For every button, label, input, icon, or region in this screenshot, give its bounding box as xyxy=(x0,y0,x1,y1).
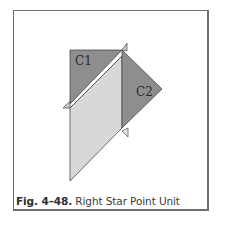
caption-label: Fig. 4–48. xyxy=(16,195,72,207)
figure-caption: Fig. 4–48. Right Star Point Unit xyxy=(16,195,180,207)
notch-top xyxy=(122,43,127,51)
label-c1: C1 xyxy=(75,54,92,68)
label-c2: C2 xyxy=(136,85,153,99)
notch-left xyxy=(63,101,70,108)
caption-text: Right Star Point Unit xyxy=(72,195,180,207)
star-point-diagram: C1 C2 xyxy=(0,0,226,226)
notch-bottom xyxy=(122,128,128,137)
